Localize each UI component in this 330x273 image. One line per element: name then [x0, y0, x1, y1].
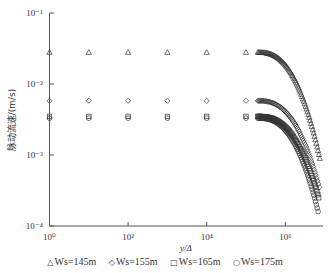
legend-label: Ws=145m [54, 256, 96, 267]
triangle-icon: △ [47, 258, 53, 267]
y-tick-label: 10⁻¹ [26, 8, 43, 18]
x-tick-label: 10² [122, 232, 134, 242]
y-tick-label: 10⁻³ [26, 150, 43, 160]
y-axis-title: 脉动流速/(m/s) [6, 89, 17, 152]
x-tick-label: 10⁰ [43, 232, 56, 242]
circle-icon: ○ [233, 258, 240, 267]
legend-item-145: △Ws=145m [47, 256, 96, 267]
square-icon: □ [170, 258, 178, 267]
legend-item-175: ○Ws=175m [233, 256, 283, 267]
series-Ws=175m [47, 116, 320, 214]
x-tick-label: 10⁴ [201, 232, 213, 242]
x-tick-label: 10⁶ [279, 232, 291, 242]
x-axis-title: y/Δ [179, 243, 192, 253]
legend-item-155: ◇Ws=155m [109, 256, 158, 267]
series-Ws=155m [47, 98, 322, 190]
chart-plot: 10⁰10²10⁴10⁶10⁻¹10⁻²10⁻³10⁻⁴ y/Δ 脉动流速/(m… [0, 0, 330, 256]
legend-label: Ws=155m [116, 256, 158, 267]
legend-label: Ws=175m [241, 256, 283, 267]
data-series [47, 50, 323, 214]
y-tick-label: 10⁻⁴ [26, 221, 43, 231]
legend-label: Ws=165m [179, 256, 221, 267]
legend: △Ws=145m ◇Ws=155m □Ws=165m ○Ws=175m [0, 256, 330, 267]
ticks: 10⁰10²10⁴10⁶10⁻¹10⁻²10⁻³10⁻⁴ [26, 8, 292, 242]
diamond-icon: ◇ [109, 258, 115, 267]
legend-item-165: □Ws=165m [170, 256, 220, 267]
y-tick-label: 10⁻² [26, 79, 43, 89]
